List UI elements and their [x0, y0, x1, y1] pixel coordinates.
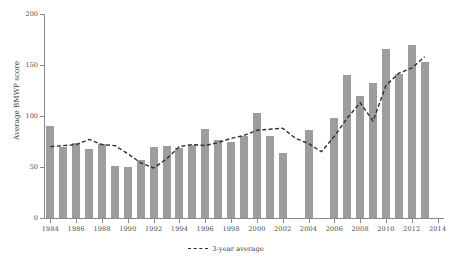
dashed-line-icon — [188, 248, 208, 249]
y-tick — [40, 218, 45, 219]
y-tick-label: 100 — [18, 112, 38, 120]
x-tick — [179, 219, 180, 223]
legend-label-3-year-average: 3-year average — [212, 245, 264, 253]
x-tick — [283, 219, 284, 223]
x-tick — [438, 219, 439, 223]
x-tick — [205, 219, 206, 223]
x-tick-label: 1992 — [145, 225, 162, 233]
x-tick-label: 1994 — [171, 225, 188, 233]
x-tick-label: 1996 — [197, 225, 214, 233]
x-tick-label: 2014 — [429, 225, 446, 233]
average-line-path — [50, 57, 424, 168]
x-tick-label: 2012 — [403, 225, 420, 233]
x-tick — [128, 219, 129, 223]
bmwp-score-chart: Average BMWP score 050100150200 19841986… — [0, 0, 452, 263]
three-year-average-line — [44, 14, 444, 218]
x-tick-label: 2006 — [326, 225, 343, 233]
x-tick — [154, 219, 155, 223]
x-tick-label: 1998 — [222, 225, 239, 233]
x-tick — [257, 219, 258, 223]
x-tick — [76, 219, 77, 223]
y-axis-title: Average BMWP score — [12, 21, 21, 181]
x-tick — [309, 219, 310, 223]
x-tick-label: 2004 — [300, 225, 317, 233]
x-tick-label: 1986 — [68, 225, 85, 233]
x-tick — [50, 219, 51, 223]
x-tick — [231, 219, 232, 223]
x-tick-label: 2008 — [351, 225, 368, 233]
x-axis-line — [44, 218, 444, 219]
x-tick-label: 1988 — [93, 225, 110, 233]
x-tick-label: 1984 — [42, 225, 59, 233]
x-tick — [386, 219, 387, 223]
y-tick-label: 50 — [18, 163, 38, 171]
x-tick — [334, 219, 335, 223]
y-tick-label: 200 — [18, 10, 38, 18]
x-tick-label: 2002 — [274, 225, 291, 233]
x-tick — [360, 219, 361, 223]
x-tick — [412, 219, 413, 223]
x-tick-label: 2000 — [248, 225, 265, 233]
y-tick-label: 0 — [18, 214, 38, 222]
y-tick-label: 150 — [18, 61, 38, 69]
x-tick-label: 2010 — [377, 225, 394, 233]
x-tick — [102, 219, 103, 223]
x-tick-label: 1990 — [119, 225, 136, 233]
chart-legend: 3-year average — [0, 243, 452, 253]
